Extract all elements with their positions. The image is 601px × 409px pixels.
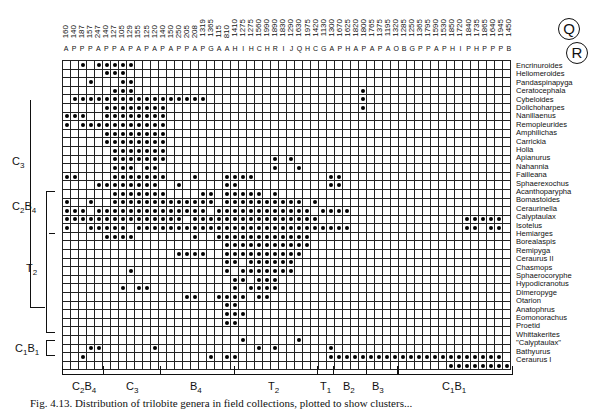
grid-cell	[215, 301, 223, 310]
presence-dot	[223, 224, 231, 233]
grid-cell	[447, 155, 455, 164]
grid-cell	[79, 103, 87, 112]
grid-cell	[423, 103, 431, 112]
grid-cell	[455, 146, 463, 155]
grid-cell	[319, 78, 327, 87]
grid-row	[63, 275, 511, 284]
grid-cell	[391, 344, 399, 353]
presence-dot	[151, 198, 159, 207]
grid-cell	[327, 146, 335, 155]
grid-cell	[407, 95, 415, 104]
presence-dot	[143, 164, 151, 173]
presence-dot	[71, 207, 79, 216]
grid-cell	[343, 284, 351, 293]
grid-cell	[375, 284, 383, 293]
grid-cell	[303, 267, 311, 276]
grid-cell	[79, 267, 87, 276]
grid-cell	[359, 344, 367, 353]
grid-cell	[263, 121, 271, 130]
grid-cell	[447, 78, 455, 87]
grid-cell	[215, 78, 223, 87]
grid-cell	[351, 86, 359, 95]
grid-cell	[87, 172, 95, 181]
grid-cell	[159, 250, 167, 259]
presence-dot	[119, 232, 127, 241]
grid-cell	[367, 181, 375, 190]
grid-cell	[495, 181, 503, 190]
grid-cell	[255, 318, 263, 327]
grid-cell	[191, 164, 199, 173]
grid-cell	[71, 189, 79, 198]
presence-dot	[151, 189, 159, 198]
grid-cell	[479, 310, 487, 319]
grid-cell	[447, 293, 455, 302]
presence-dot	[135, 112, 143, 121]
grid-cell	[391, 293, 399, 302]
grid-cell	[87, 138, 95, 147]
grid-cell	[327, 310, 335, 319]
grid-cell	[119, 241, 127, 250]
presence-dot	[143, 103, 151, 112]
grid-cell	[279, 189, 287, 198]
presence-dot	[151, 129, 159, 138]
grid-cell	[391, 69, 399, 78]
presence-dot	[159, 155, 167, 164]
presence-dot	[335, 181, 343, 190]
grid-cell	[479, 224, 487, 233]
grid-cell	[335, 164, 343, 173]
grid-cell	[223, 78, 231, 87]
presence-dot	[247, 250, 255, 259]
grid-cell	[359, 164, 367, 173]
grid-cell	[111, 250, 119, 259]
grid-cell	[407, 103, 415, 112]
grid-cell	[431, 78, 439, 87]
presence-dot	[359, 353, 367, 362]
grid-cell	[183, 86, 191, 95]
grid-cell	[367, 129, 375, 138]
collection-prefix: P	[126, 45, 134, 52]
grid-cell	[471, 301, 479, 310]
presence-dot	[119, 181, 127, 190]
grid-cell	[95, 353, 103, 362]
grid-cell	[103, 86, 111, 95]
presence-dot	[263, 258, 271, 267]
grid-cell	[375, 293, 383, 302]
grid-cell	[263, 69, 271, 78]
grid-cell	[287, 301, 295, 310]
presence-dot	[127, 215, 135, 224]
grid-cell	[343, 189, 351, 198]
grid-cell	[71, 69, 79, 78]
presence-dot	[143, 181, 151, 190]
presence-dot	[135, 138, 143, 147]
grid-cell	[423, 336, 431, 345]
grid-cell	[447, 138, 455, 147]
presence-dot	[87, 224, 95, 233]
grid-cell	[255, 86, 263, 95]
grid-cell	[503, 353, 511, 362]
grid-cell	[143, 232, 151, 241]
grid-row	[63, 284, 511, 293]
presence-dot	[375, 353, 383, 362]
presence-dot	[159, 224, 167, 233]
grid-cell	[119, 353, 127, 362]
grid-cell	[263, 86, 271, 95]
grid-cell	[399, 61, 407, 70]
grid-cell	[247, 336, 255, 345]
grid-cell	[303, 86, 311, 95]
grid-cell	[431, 318, 439, 327]
grid-cell	[463, 344, 471, 353]
grid-cell	[343, 121, 351, 130]
grid-cell	[143, 275, 151, 284]
grid-cell	[439, 172, 447, 181]
grid-cell	[431, 181, 439, 190]
grid-cell	[199, 78, 207, 87]
collection-prefix: A	[167, 45, 175, 52]
grid-cell	[503, 103, 511, 112]
grid-cell	[295, 181, 303, 190]
grid-cell	[183, 146, 191, 155]
grid-cell	[319, 258, 327, 267]
collection-prefix: A	[94, 45, 102, 52]
grid-cell	[175, 86, 183, 95]
grid-cell	[295, 112, 303, 121]
grid-cell	[119, 258, 127, 267]
